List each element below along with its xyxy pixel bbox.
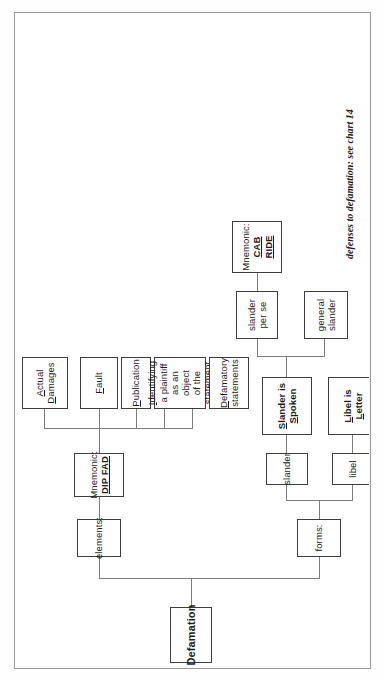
mnemonic-prefix-label: Mnemonic: [88,451,99,498]
node-slander-is-spoken[interactable]: Slander is Spoken [262,377,312,435]
edge-mnemonic-spine [44,428,192,429]
mnemonic-value-label: CAB RIDE [251,224,273,270]
node-label-line2: Spoken [287,389,298,424]
edge-root-to-elements [99,557,100,579]
edge-slander-per-se-to-mnemonic [257,273,258,291]
node-label-line1: Identifying [146,361,157,405]
edge-mnemonic-to-actual-damages [44,409,45,429]
underline-p: P [130,400,141,406]
edge-libel-to-mnemonic [352,435,353,453]
edge-mnemonic-to-publication [136,409,137,429]
node-label-line1: slander [246,299,257,331]
node-label-line2: per se [257,302,268,329]
edge-root-to-forms [319,557,320,579]
flowchart-canvas: Defamation elements: forms: Mnemonic: DI… [14,12,369,667]
edge-root-spine [99,578,319,579]
node-label: Fault [93,372,104,394]
edge-mnemonic-to-fault [99,409,100,429]
node-elements[interactable]: elements: [77,519,121,557]
node-label: Publication [130,359,141,407]
underline-a: A [34,390,45,396]
edge-mnemonic-to-defamatory [192,409,193,429]
node-forms[interactable]: forms: [297,519,341,557]
node-label: libel [347,460,358,477]
node-label-line1: Actual [34,370,45,397]
mnemonic-prefix-label: Mnemonic: [240,223,251,270]
chart-page: Defamation elements: forms: Mnemonic: DI… [0,0,383,681]
edge-spoken-spine [257,356,324,357]
node-label-line2: statements [229,359,240,406]
node-identifying-plaintiff[interactable]: Identifying a plaintiff as an object of … [154,357,206,409]
node-mnemonic-cab-ride[interactable]: Mnemonic: CAB RIDE [232,221,282,273]
node-label: slander [281,453,292,485]
node-general-slander[interactable]: general slander [304,291,348,339]
node-label-line2: a plaintiff [158,364,169,403]
underline-d2: D [218,401,229,408]
edge-mnemonic-stem [99,429,100,453]
node-defamation-root[interactable]: Defamation [170,607,212,663]
node-defamatory-statements[interactable]: Defamatory statements [209,357,249,409]
node-slander[interactable]: slander [266,453,308,485]
underline-s2: S [287,417,298,423]
edge-forms-spine [286,500,352,501]
edge-forms-stem [319,501,320,519]
edge-elements-to-mnemonic [99,497,100,519]
node-label-line3: as an object [169,360,191,406]
rotated-chart-viewport: Defamation elements: forms: Mnemonic: DI… [14,12,369,667]
footnote-defenses: defenses to defamation: see chart 14 [344,109,355,259]
edge-mnemonic-to-identifying [164,409,165,429]
node-label: elements: [93,517,104,559]
edge-forms-to-libel [352,485,353,501]
edge-spoken-to-slander-per-se [257,339,258,357]
underline-l1: L [342,417,353,423]
node-label-line2: Letter [353,393,364,420]
edge-spoken-stem [286,357,287,377]
underline-d: D [45,397,56,404]
mnemonic-value-label: DIP FAD [99,456,110,494]
node-label-line1: Defamatory [218,358,229,408]
node-slander-per-se[interactable]: slander per se [236,291,278,339]
node-label: forms: [313,525,324,552]
node-label-line4: of the [191,371,202,395]
node-mnemonic-dip-fad[interactable]: Mnemonic: DIP FAD [74,453,124,497]
node-libel[interactable]: libel [332,453,369,485]
actual-rest: ctual [34,370,45,391]
edge-spoken-to-general-slander [324,339,325,357]
node-libel-is-letter[interactable]: Libel is Letter [328,377,369,435]
underline-l2: L [353,414,364,420]
underline-s1: S [276,423,287,429]
edge-forms-to-slander [286,485,287,501]
edge-slander-to-mnemonic [286,435,287,453]
node-label-line1: Libel is [342,389,353,423]
node-label-line2: slander [326,299,337,331]
underline-f: F [93,388,104,394]
node-label-line2: Damages [45,362,56,403]
underline-i: I [146,402,157,405]
node-actual-damages[interactable]: Actual Damages [22,357,68,409]
node-label: Defamation [185,605,198,666]
node-fault[interactable]: Fault [80,357,118,409]
node-label-line1: general [315,299,326,331]
edge-root-stem [191,579,192,607]
node-label-line1: Slander is [276,383,287,429]
